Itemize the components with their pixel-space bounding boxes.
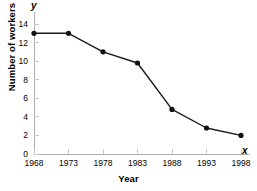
y-tick-label: 2 — [10, 130, 28, 140]
x-tick-marks — [34, 149, 241, 154]
data-point-marker — [66, 31, 71, 36]
data-point-marker — [169, 107, 174, 112]
line-chart: 02468101214 1968197319781983198819931998… — [0, 0, 257, 191]
y-axis-title-text: Number of workers — [5, 0, 19, 107]
x-axis-title: Year — [0, 173, 257, 184]
data-point-markers — [31, 31, 243, 138]
x-axis-variable-label: x — [242, 145, 248, 156]
y-tick-label: 4 — [10, 112, 28, 122]
data-series-line — [34, 33, 241, 135]
y-axis-variable-label: y — [31, 0, 37, 11]
data-point-marker — [31, 31, 36, 36]
data-point-marker — [100, 49, 105, 54]
data-point-marker — [238, 133, 243, 138]
y-tick-marks — [34, 24, 39, 154]
y-axis-title: Number of workers — [5, 0, 19, 107]
data-point-marker — [204, 125, 209, 130]
x-tick-label: 1998 — [221, 158, 257, 168]
data-point-marker — [135, 60, 140, 65]
